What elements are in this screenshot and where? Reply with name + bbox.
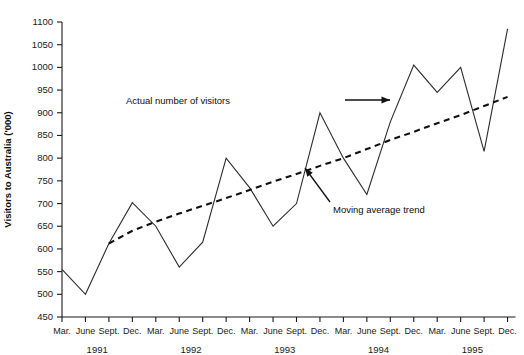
x-axis-year-label: 1994 <box>368 344 389 355</box>
y-tick-label: 700 <box>37 198 53 209</box>
y-axis-title: Visitors to Australia ('000) <box>2 111 13 227</box>
x-tick-label: Mar. <box>428 326 446 336</box>
x-tick-label: June <box>263 326 283 336</box>
x-axis-year-label: 1993 <box>274 344 295 355</box>
y-tick-label: 750 <box>37 175 53 186</box>
x-tick-label: June <box>451 326 471 336</box>
x-tick-label: Sept. <box>98 326 119 336</box>
x-tick-label: Mar. <box>241 326 259 336</box>
x-tick-label: June <box>76 326 96 336</box>
x-tick-label: Dec. <box>311 326 330 336</box>
x-axis-year-label: 1992 <box>180 344 201 355</box>
y-tick-label: 900 <box>37 107 53 118</box>
x-tick-label: Mar. <box>53 326 71 336</box>
x-tick-label: Mar. <box>335 326 353 336</box>
x-axis-year-label: 1995 <box>462 344 483 355</box>
y-tick-label: 800 <box>37 152 53 163</box>
y-tick-label: 600 <box>37 243 53 254</box>
x-tick-label: June <box>357 326 377 336</box>
x-tick-label: Dec. <box>123 326 142 336</box>
x-tick-label: June <box>169 326 189 336</box>
y-tick-label: 1100 <box>33 16 53 27</box>
y-tick-label: 650 <box>37 220 53 231</box>
x-tick-label: Sept. <box>380 326 401 336</box>
y-tick-label: 1000 <box>32 61 53 72</box>
actual-series-annotation-arrowhead <box>382 97 391 104</box>
y-tick-label: 550 <box>37 266 53 277</box>
y-tick-label: 1050 <box>32 39 53 50</box>
y-tick-label: 950 <box>37 84 53 95</box>
x-tick-label: Dec. <box>217 326 236 336</box>
x-tick-label: Mar. <box>147 326 165 336</box>
x-tick-label: Dec. <box>498 326 517 336</box>
y-tick-label: 450 <box>37 311 53 322</box>
x-tick-label: Sept. <box>474 326 495 336</box>
x-axis-year-label: 1991 <box>87 344 108 355</box>
chart-canvas: 4505005506006507007508008509009501000105… <box>0 0 524 355</box>
trend-series-annotation-label: Moving average trend <box>333 204 425 215</box>
x-tick-label: Sept. <box>192 326 213 336</box>
x-tick-label: Dec. <box>404 326 423 336</box>
actual-series-annotation-label: Actual number of visitors <box>126 95 230 106</box>
y-tick-label: 500 <box>37 288 53 299</box>
visitors-to-australia-chart: 4505005506006507007508008509009501000105… <box>0 0 524 355</box>
x-tick-label: Sept. <box>286 326 307 336</box>
y-tick-label: 850 <box>37 129 53 140</box>
actual-visitors-series <box>62 29 508 295</box>
